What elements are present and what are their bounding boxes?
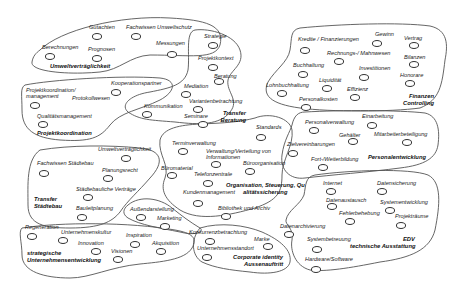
cluster-title-personal: Personalentwicklung [368,154,426,161]
item-projektkontext: Projektkontext [198,55,233,61]
item-buchhaltung: Buchhaltung [293,62,324,68]
item-bilanzen: Bilanzen [404,54,425,60]
item-konkurrenzbetrachtung: Konkurrenzbetrachtung [189,229,247,235]
item-kundenmanagement: Kundenmanagement [183,189,235,195]
item-systementwicklung: Systementwicklung [380,199,428,205]
item-innovation: Innovation [78,240,104,246]
item-liquiditaet: Liquidität [319,77,341,83]
item-oval [334,58,344,65]
item-gutachten: Gutachten [89,24,115,30]
item-visionen: Visionen [111,248,132,254]
item-fehlerbehebung: Fehlerbehebung [339,210,380,216]
item-oval [113,256,123,263]
cluster-title-corporate-line1: Corporate identity [233,254,283,261]
item-oval [205,238,215,245]
item-oval [131,33,141,40]
item-hardware-software: Hardware/Software [305,256,353,262]
item-oval [367,122,377,129]
item-effizienz: Effizienz [347,86,368,92]
item-oval [58,237,68,244]
item-internet: Internet [323,180,342,186]
item-oval [312,246,322,253]
cluster-title-corporate-line2: Aussenauftritt [244,261,283,268]
item-oval [178,148,188,155]
item-prognosen: Prognosen [88,46,115,52]
item-protokollwesen: Protokollwesen [72,95,110,101]
item-oval [318,164,328,171]
item-umweltvertraeglichkeit: Umweltverträglichkeit [98,146,151,152]
item-oval [345,218,355,225]
item-oval [256,134,266,141]
item-personalverwaltung: Personalverwaltung [305,119,354,125]
item-aussendarstellung: Außendarstellung [130,206,174,212]
item-datenarchivierung: Datenarchivierung [280,223,325,229]
item-oval [91,248,101,255]
item-oval [322,85,332,92]
item-gewinn: Gewinn [375,31,394,37]
item-oval [156,248,166,255]
item-mitarbeiterbeteiligung: Mitarbeiterbeteiligung [374,131,427,137]
item-oval [405,80,415,87]
item-oval [211,161,221,168]
item-oval [38,121,48,128]
item-oval [167,172,177,179]
item-oval [409,42,419,49]
item-kooperationspartner: Kooperationspartner [111,80,162,86]
cluster-title-finanzen: Finanzen Controlling [398,93,434,106]
item-oval [103,175,113,182]
item-bibliothek-archiv: Bibliothek und Archiv [218,205,270,211]
item-oval [167,51,177,58]
item-oval [377,188,387,195]
item-oval [385,207,395,214]
item-oval [30,102,40,109]
item-strategie: Strategie [204,33,226,39]
item-telefonzentrale: Telefonzentrale [194,171,232,177]
item-oval [121,155,131,162]
cluster-title-organisation-line2: alitätssicherung [243,189,287,196]
item-oval [193,106,203,113]
item-lohnbuchhaltung: Lohnbuchhaltung [266,82,309,88]
item-bueromaterial: Büromaterial [161,165,193,171]
item-oval [309,127,319,134]
item-oval [193,200,203,207]
cluster-title-strategie-line1: strategische [27,250,61,257]
item-oval [300,47,310,54]
item-akquisition: Akquisition [152,240,179,246]
item-oval [77,214,87,221]
item-oval [142,111,152,118]
item-investitionen: Investitionen [359,65,390,71]
item-oval [284,231,294,238]
cluster-title-edv-line1: EDV [403,236,415,243]
item-oval [160,223,170,230]
item-oval [409,61,419,68]
item-oval [298,71,308,78]
item-datensicherung: Datensicherung [377,180,416,186]
item-oval [288,150,298,157]
item-oval [198,121,208,128]
item-variantenbetrachtung: Variantenbetrachtung [189,98,242,104]
item-oval [208,64,218,71]
item-oval [301,104,311,111]
item-personalkosten: Personalkosten [299,96,338,102]
item-oval [327,203,337,210]
item-oval [372,40,382,47]
item-vertrag: Vertrag [404,35,422,41]
item-oval [136,214,146,221]
item-zielvereinbarungen: Zielvereinbarungen [287,141,335,147]
item-oval [214,78,224,85]
item-bueroorganisation: Büroorganisation [243,160,285,166]
item-oval [92,33,102,40]
cluster-title-strategie-line2: Unternehmensentwicklung [27,257,101,264]
item-standards: Standards [256,124,282,130]
item-oval [39,170,49,177]
cluster-title-organisation-line1: Organisation, Steuerung, Qu [226,182,305,189]
item-berechnungen: Berechnungen [42,44,78,50]
item-oval [83,194,93,201]
item-oval [27,233,37,240]
item-oval [396,222,406,229]
item-informationen: Informationen [206,154,240,160]
cluster-diagram: Gutachten Fachwissen Umweltschutz Berech… [0,0,459,289]
item-oval [245,168,255,175]
item-planungsrecht: Planungsrecht [102,167,138,173]
item-terminverwaltung: Terminverwaltung [172,140,216,146]
